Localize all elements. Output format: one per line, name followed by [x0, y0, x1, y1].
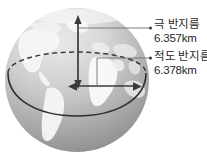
polar-radius-title: 극 반지름: [154, 18, 200, 31]
polar-radius-label: 극 반지름 6.357km: [154, 18, 200, 45]
polar-radius-value: 6.357km: [154, 32, 200, 45]
equatorial-radius-title: 적도 반지름: [154, 50, 207, 63]
equatorial-radius-value: 6.378km: [154, 64, 207, 77]
equatorial-radius-label: 적도 반지름 6.378km: [154, 50, 207, 77]
earth-radius-diagram: 극 반지름 6.357km 적도 반지름 6.378km: [0, 0, 207, 165]
